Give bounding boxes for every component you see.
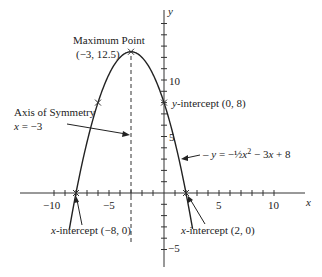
aos-arrow: [67, 124, 130, 137]
max-point-coords: (−3, 12.5): [76, 48, 120, 61]
x-intercept-right-label: x-intercept (2, 0): [180, 224, 255, 237]
equation-label: – y = −½x2 − 3x + 8: [202, 147, 291, 160]
y-intercept-label: y-intercept (0, 8): [171, 97, 246, 110]
x-axis-label: x: [305, 196, 311, 208]
x-tick-label: 5: [216, 199, 222, 211]
x-intercept-left-arrow: [74, 196, 82, 225]
x-tick-label: 10: [268, 199, 280, 211]
aos-equation: x = −3: [13, 120, 43, 132]
x-tick-label: −5: [103, 199, 115, 211]
x-intercept-left-label: x-intercept (−8, 0): [50, 224, 131, 237]
y-axis-ticks: [161, 24, 167, 250]
y-tick-label: −5: [168, 242, 180, 254]
parabola-graph: x y −10 −5 5 10 10 5 −5 Maximum Point (−…: [0, 0, 322, 277]
max-point-title: Maximum Point: [73, 34, 145, 46]
equation-arrow: [181, 155, 200, 161]
y-axis-label: y: [167, 5, 173, 17]
x-tick-label: −10: [43, 199, 61, 211]
aos-title: Axis of Symmetry: [14, 106, 96, 118]
y-tick-label: 10: [169, 75, 181, 87]
